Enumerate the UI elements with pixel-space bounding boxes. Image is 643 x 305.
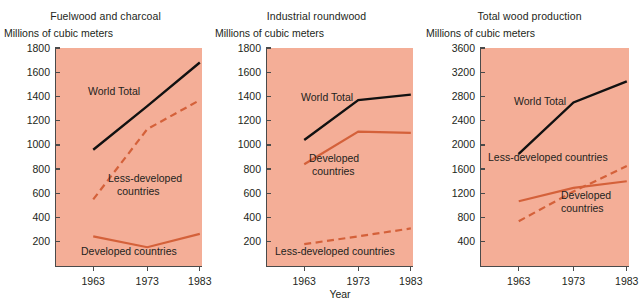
y-axis-tick	[266, 217, 271, 218]
annotation-developed: Developed countries	[81, 245, 177, 258]
y-axis-tick	[55, 96, 60, 97]
y-axis-tick-label: 600	[217, 188, 261, 198]
series-line	[304, 228, 411, 244]
series-line	[519, 81, 627, 154]
y-axis-tick	[480, 193, 485, 194]
y-axis-tick	[266, 120, 271, 121]
y-axis-tick	[480, 72, 485, 73]
x-axis-tick-label: 1973	[125, 276, 169, 287]
y-axis-tick-label: 600	[6, 188, 50, 198]
series-line	[93, 63, 200, 150]
y-axis-tick	[266, 193, 271, 194]
annotation-developed-line1: Developed	[309, 152, 359, 165]
y-axis-tick	[55, 47, 60, 48]
x-axis-tick-label: 1963	[282, 276, 326, 287]
y-axis-tick	[266, 47, 271, 48]
y-axis-tick-label: 200	[217, 236, 261, 246]
panel-title: Fuelwood and charcoal	[0, 10, 211, 22]
y-axis-tick	[480, 217, 485, 218]
y-axis-tick	[55, 144, 60, 145]
y-axis-tick-label: 1000	[217, 139, 261, 149]
y-axis-tick-label: 1800	[6, 43, 50, 53]
y-axis-tick-label: 1600	[431, 164, 475, 174]
annotation-world-total: World Total	[514, 95, 566, 108]
panel-fuelwood-and-charcoal: Fuelwood and charcoal Millions of cubic …	[0, 0, 211, 305]
y-axis-tick-label: 1400	[217, 91, 261, 101]
annotation-world-total: World Total	[88, 85, 140, 98]
y-axis-tick-label: 1400	[6, 91, 50, 101]
x-axis-tick	[410, 266, 411, 271]
y-axis-tick-label: 1000	[6, 139, 50, 149]
plot-area	[56, 48, 202, 266]
y-axis-tick-label: 800	[217, 164, 261, 174]
annotation-less-developed: Less-developed countries	[275, 245, 395, 258]
annotation-developed-line2: countries	[312, 165, 355, 178]
y-axis-tick-label: 400	[6, 212, 50, 222]
y-axis-tick	[480, 241, 485, 242]
x-axis-title: Year	[267, 288, 413, 300]
y-axis-line	[266, 48, 267, 267]
y-axis-tick	[55, 72, 60, 73]
y-axis-tick	[480, 144, 485, 145]
y-axis-tick	[266, 144, 271, 145]
y-axis-tick	[480, 168, 485, 169]
panel-title: Industrial roundwood	[211, 10, 422, 22]
annotation-world-total: World Total	[301, 91, 353, 104]
y-axis-tick-label: 2400	[431, 115, 475, 125]
x-axis-tick-label: 1963	[71, 276, 115, 287]
y-axis-tick-label: 3600	[431, 43, 475, 53]
x-axis-tick	[147, 266, 148, 271]
y-axis-tick	[480, 96, 485, 97]
y-axis-tick-label: 800	[6, 164, 50, 174]
y-axis-unit-label: Millions of cubic meters	[426, 27, 535, 39]
y-axis-tick-label: 400	[217, 212, 261, 222]
x-axis-line	[55, 266, 202, 267]
x-axis-line	[480, 266, 629, 267]
y-axis-tick-label: 1800	[217, 43, 261, 53]
x-axis-line	[266, 266, 413, 267]
y-axis-tick	[266, 168, 271, 169]
y-axis-tick-label: 1600	[217, 67, 261, 77]
y-axis-tick	[55, 193, 60, 194]
y-axis-tick-label: 400	[431, 236, 475, 246]
x-axis-tick	[199, 266, 200, 271]
y-axis-tick-label: 1200	[431, 188, 475, 198]
x-axis-tick-label: 1973	[552, 276, 596, 287]
annotation-less-developed: Less-developed countries	[488, 151, 608, 164]
x-axis-tick-label: 1963	[497, 276, 541, 287]
annotation-developed-line1: Developed	[561, 189, 611, 202]
panel-total-wood-production: Total wood production Millions of cubic …	[422, 0, 637, 305]
y-axis-tick	[480, 47, 485, 48]
y-axis-tick-label: 1600	[6, 67, 50, 77]
y-axis-tick-label: 3200	[431, 67, 475, 77]
x-axis-tick	[304, 266, 305, 271]
y-axis-tick	[266, 241, 271, 242]
y-axis-tick-label: 1200	[6, 115, 50, 125]
panel-industrial-roundwood: Industrial roundwood Millions of cubic m…	[211, 0, 422, 305]
y-axis-tick	[55, 120, 60, 121]
y-axis-tick	[266, 96, 271, 97]
x-axis-tick	[93, 266, 94, 271]
x-axis-tick	[626, 266, 627, 271]
x-axis-tick	[573, 266, 574, 271]
x-axis-tick-label: 1973	[336, 276, 380, 287]
y-axis-tick	[480, 120, 485, 121]
annotation-less-developed-line1: Less-developed	[108, 172, 182, 185]
series-layer	[56, 48, 202, 266]
y-axis-tick	[55, 217, 60, 218]
annotation-developed-line2: countries	[561, 202, 604, 215]
panel-title: Total wood production	[422, 10, 637, 22]
y-axis-tick	[266, 72, 271, 73]
y-axis-unit-label: Millions of cubic meters	[215, 27, 324, 39]
x-axis-tick	[518, 266, 519, 271]
x-axis-tick-label: 1983	[605, 276, 643, 287]
y-axis-tick-label: 1200	[217, 115, 261, 125]
y-axis-tick	[55, 241, 60, 242]
y-axis-tick-label: 200	[6, 236, 50, 246]
annotation-less-developed-line2: countries	[117, 185, 160, 198]
y-axis-tick	[55, 168, 60, 169]
y-axis-tick-label: 2000	[431, 139, 475, 149]
y-axis-line	[55, 48, 56, 267]
